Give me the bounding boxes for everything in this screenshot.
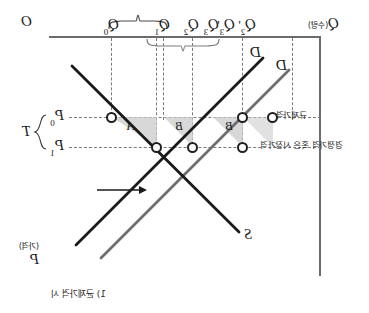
price-gap-brace xyxy=(33,113,47,153)
tick-label-q2-prime: Q2' xyxy=(238,17,256,35)
tick-q1-sub: 1 xyxy=(155,27,160,37)
region-b2-label: B xyxy=(226,120,233,132)
tick-label-q2: Q2 xyxy=(184,17,199,35)
tick-q1-symbol: Q xyxy=(159,16,170,32)
tick-q3p-symbol: Q xyxy=(224,16,235,32)
region-b1-label: B xyxy=(176,120,183,132)
region-a-label: A xyxy=(127,120,134,132)
x-axis-symbol: Q xyxy=(328,15,339,31)
brace-lower xyxy=(143,38,221,52)
diagram-stage: O Q(수량) (가격) P Q0 Q1 Q2 Q3 Q3' Q2' xyxy=(0,0,369,313)
shift-arrow-icon xyxy=(95,182,147,198)
x-axis-unit: (수량) xyxy=(308,21,328,30)
quantity-guide-q2-prime xyxy=(111,38,112,120)
demand-curve-inner xyxy=(101,70,289,258)
supply-curve-label: S xyxy=(245,227,253,242)
figure-canvas: O Q(수량) (가격) P Q0 Q1 Q2 Q3 Q3' Q2' xyxy=(0,0,369,313)
tick-label-q1: Q1 xyxy=(155,17,170,35)
figure-caption: 1) 균제가격 시 xyxy=(51,290,106,299)
y-axis-line xyxy=(319,36,321,276)
tick-q2-symbol: Q xyxy=(188,16,199,32)
y-axis-label: (가격) P xyxy=(19,243,39,267)
tick-q0-sub: 0 xyxy=(104,27,109,37)
price-p1-sub: 1 xyxy=(50,148,55,158)
price-p0-symbol: P xyxy=(55,107,64,123)
tick-q3-sub: 3 xyxy=(204,27,209,37)
region-a-shape xyxy=(112,117,157,147)
tick-q2p-symbol: Q xyxy=(245,16,256,32)
price-p0-sub: 0 xyxy=(50,118,55,128)
quantity-guide-q0 xyxy=(292,38,293,120)
quantity-guide-q1 xyxy=(242,38,243,150)
price-label-p0: P0 xyxy=(50,108,64,126)
node-intersection-5 xyxy=(188,142,199,153)
demand-curve-outer xyxy=(76,58,263,245)
y-axis-unit: (가격) xyxy=(19,243,39,251)
note-regulated-price: 규제가격 xyxy=(276,111,307,120)
node-intersection-6 xyxy=(152,142,163,153)
x-axis-label: Q(수량) xyxy=(308,15,339,31)
quantity-guide-q2 xyxy=(192,38,193,150)
price-gap-label: T xyxy=(23,124,31,139)
node-intersection-2 xyxy=(238,112,249,123)
tick-q3p-sub: 3 xyxy=(220,27,225,37)
quantity-guide-q3-prime xyxy=(156,38,157,150)
tick-q0-symbol: Q xyxy=(108,16,119,32)
demand-curve-inner-label: D xyxy=(276,58,287,73)
tick-q2-sub: 2 xyxy=(184,27,189,37)
price-label-p1: P1 xyxy=(50,138,64,156)
origin-label: O xyxy=(21,14,32,29)
price-p1-symbol: P xyxy=(55,137,64,153)
tick-label-q3-prime: Q3' xyxy=(217,17,235,35)
y-axis-symbol: P xyxy=(19,252,39,267)
note-competitive-price: 경쟁가격 혹은 시장가격 xyxy=(260,141,343,150)
node-intersection-4 xyxy=(238,142,249,153)
tick-q2p-sub: 2 xyxy=(241,27,246,37)
node-intersection-3 xyxy=(107,112,118,123)
demand-curve-outer-label: D xyxy=(250,45,261,60)
tick-label-q0: Q0 xyxy=(104,17,119,35)
